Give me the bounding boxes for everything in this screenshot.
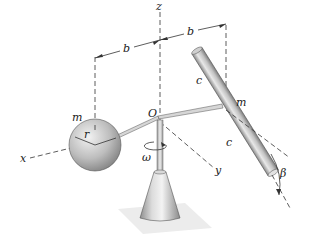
y-axis <box>160 122 214 168</box>
sphere-mass-label: m <box>72 111 82 124</box>
rod-mass-label: m <box>236 96 246 109</box>
rod-upper-c-label: c <box>196 74 202 87</box>
left-b-label: b <box>123 42 130 55</box>
arrowhead-icon <box>276 189 281 195</box>
conical-base <box>140 172 180 221</box>
arm-right <box>158 104 223 119</box>
x-axis <box>30 147 75 158</box>
right-b-label: b <box>187 25 194 38</box>
rod-lower-c-label: c <box>226 136 232 149</box>
beta-label: β <box>279 167 286 180</box>
tilted-rod <box>191 46 280 178</box>
vertical-shaft <box>157 120 163 176</box>
arrowhead-icon <box>219 24 226 28</box>
sphere-radius-label: r <box>84 128 90 141</box>
x-axis-label: x <box>20 152 27 165</box>
arrowhead-icon <box>160 37 168 40</box>
dynamics-diagram: z b b x y ω r m c c m β <box>0 0 309 236</box>
y-axis-label: y <box>214 164 222 177</box>
left-dimension-line-2 <box>134 40 160 47</box>
omega-label: ω <box>142 151 151 164</box>
origin-label: O <box>148 107 157 120</box>
arrowhead-icon <box>95 54 103 58</box>
cone-top <box>154 170 166 174</box>
z-axis-label: z <box>155 0 162 13</box>
